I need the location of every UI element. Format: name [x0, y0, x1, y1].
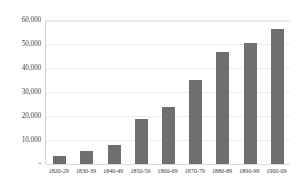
x-tick-label: 1860-69 — [154, 166, 181, 175]
x-axis: 1820-291830-391840-491850-591860-691870-… — [45, 166, 290, 180]
bar-series — [46, 21, 290, 164]
y-tick-label: 10,000 — [0, 136, 41, 144]
x-tick-label: 1830-39 — [72, 166, 99, 175]
y-tick-label: 60,000 — [0, 16, 41, 24]
plot-area — [45, 20, 290, 164]
bar — [271, 29, 284, 164]
y-tick-label: 30,000 — [0, 88, 41, 96]
bar — [108, 145, 121, 164]
bar — [162, 107, 175, 164]
x-tick-label: 1820-29 — [45, 166, 72, 175]
x-tick-label: 1870-79 — [181, 166, 208, 175]
bar — [135, 119, 148, 164]
x-tick-label: 1900-09 — [263, 166, 290, 175]
bar — [80, 151, 93, 164]
bar — [53, 156, 66, 164]
bar — [244, 43, 257, 164]
gridline-0 — [46, 164, 290, 165]
bar — [216, 52, 229, 164]
y-tick-label: 40,000 — [0, 64, 41, 72]
y-tick-label: - — [0, 160, 41, 168]
y-tick-label: 50,000 — [0, 40, 41, 48]
bar-chart: -10,00020,00030,00040,00050,00060,000 18… — [0, 0, 296, 188]
y-axis: -10,00020,00030,00040,00050,00060,000 — [0, 0, 41, 188]
x-tick-label: 1850-59 — [127, 166, 154, 175]
bar — [189, 80, 202, 164]
x-tick-label: 1840-49 — [99, 166, 126, 175]
x-tick-label: 1890-99 — [236, 166, 263, 175]
y-tick-label: 20,000 — [0, 112, 41, 120]
x-tick-label: 1880-89 — [208, 166, 235, 175]
